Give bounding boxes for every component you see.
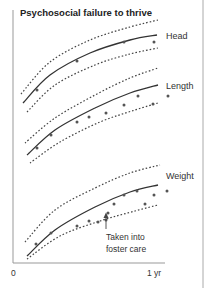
length-data-point bbox=[50, 134, 53, 137]
annotation-line-1: Taken into bbox=[106, 232, 145, 242]
weight-data-point bbox=[97, 221, 100, 224]
length-data-point bbox=[36, 147, 39, 150]
length-data-point bbox=[167, 95, 170, 98]
length-data-point bbox=[123, 104, 126, 107]
length-data-point bbox=[137, 95, 140, 98]
weight-data-point bbox=[107, 212, 110, 215]
head-data-point bbox=[36, 89, 39, 92]
foster-care-annotation: Taken into foster care bbox=[104, 213, 147, 255]
weight-data-point bbox=[153, 194, 156, 197]
head-data-point bbox=[153, 41, 156, 44]
weight-data-point bbox=[166, 190, 169, 193]
weight-data-point bbox=[136, 190, 139, 193]
head-lower-centile-curve bbox=[27, 48, 158, 112]
weight-upper-centile-curve bbox=[25, 165, 160, 242]
centile-curves bbox=[21, 20, 160, 259]
weight-data-point bbox=[76, 225, 79, 228]
weight-data-point bbox=[35, 243, 38, 246]
head-data-point bbox=[76, 60, 79, 63]
series-label-length: Length bbox=[166, 81, 194, 91]
head-data-point bbox=[123, 41, 126, 44]
weight-data-point bbox=[144, 203, 147, 206]
length-data-point bbox=[152, 103, 155, 106]
growth-chart: Psychosocial failure to thrive Head Leng… bbox=[0, 0, 205, 288]
x-tick-1yr: 1 yr bbox=[147, 268, 161, 278]
chart-title: Psychosocial failure to thrive bbox=[20, 7, 152, 18]
weight-data-point bbox=[88, 220, 91, 223]
series-label-head: Head bbox=[166, 31, 188, 41]
length-data-point bbox=[88, 116, 91, 119]
annotation-line-2: foster care bbox=[106, 244, 146, 254]
length-lower-centile-curve bbox=[30, 103, 158, 163]
x-tick-0: 0 bbox=[11, 268, 16, 278]
series-label-weight: Weight bbox=[166, 171, 194, 181]
weight-data-point bbox=[123, 194, 126, 197]
weight-data-point bbox=[50, 232, 53, 235]
weight-data-point bbox=[113, 203, 116, 206]
length-data-point bbox=[76, 121, 79, 124]
length-data-point bbox=[105, 112, 108, 115]
chart-axes bbox=[13, 10, 165, 263]
